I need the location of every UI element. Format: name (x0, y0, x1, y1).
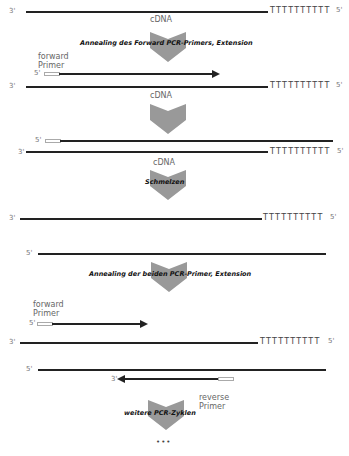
cdna-strand (20, 342, 258, 344)
reverse-primer-label: reversePrimer (199, 393, 229, 411)
three-prime-label: 3' (9, 339, 15, 346)
three-prime-label: 3' (18, 149, 24, 156)
forward-primer (44, 72, 60, 76)
five-prime-label: 5' (330, 214, 336, 221)
arrow-head-icon (212, 70, 220, 78)
three-prime-label: 3' (9, 83, 15, 90)
poly-t-tail: TTTTTTTTTT (270, 82, 331, 90)
five-prime-label: 5' (328, 338, 334, 345)
five-prime-label: 5' (26, 250, 32, 257)
step-label-annealing-forward: Annealing des Forward PCR-Primers, Exten… (80, 39, 253, 47)
poly-t-tail: TTTTTTTTTT (263, 214, 324, 222)
cdna-label: cDNA (150, 91, 172, 100)
forward-primer (45, 139, 61, 143)
cdna-strand (20, 218, 262, 220)
five-prime-label: 5' (29, 320, 35, 327)
cdna-strand (26, 86, 268, 88)
five-prime-label: 5' (34, 70, 40, 77)
step-label-annealing-both: Annealing der beiden PCR-Primer, Extensi… (89, 270, 251, 278)
ellipsis: ••• (156, 438, 171, 446)
complement-strand (60, 140, 333, 142)
step-label-melting: Schmelzen (145, 178, 184, 186)
five-prime-label: 5' (337, 148, 343, 155)
three-prime-label: 3' (9, 8, 15, 15)
five-prime-label: 5' (336, 82, 342, 89)
complement-strand (38, 253, 326, 255)
cdna-strand (26, 11, 268, 13)
cdna-label: cDNA (150, 15, 172, 24)
forward-primer-label: forwardPrimer (38, 52, 69, 70)
five-prime-label: 5' (35, 137, 41, 144)
step-arrow-2 (150, 104, 186, 134)
step-arrow-1 (150, 32, 186, 62)
forward-primer (37, 322, 53, 326)
forward-primer-label: forwardPrimer (33, 300, 64, 318)
cdna-strand (26, 151, 268, 153)
step-label-further-cycles: weitere PCR-Zyklen (124, 409, 196, 417)
poly-t-tail: TTTTTTTTTT (270, 148, 331, 156)
three-prime-label: 3' (9, 215, 15, 222)
reverse-primer (218, 377, 234, 381)
arrow-head-icon (140, 320, 148, 328)
extension-strand (59, 73, 214, 75)
poly-t-tail: TTTTTTTTTT (270, 7, 331, 15)
complement-strand (38, 369, 326, 371)
cdna-label: cDNA (153, 158, 175, 167)
five-prime-label: 5' (26, 366, 32, 373)
five-prime-label: 5' (336, 7, 342, 14)
poly-t-tail: TTTTTTTTTT (260, 338, 321, 346)
reverse-extension-strand (124, 378, 218, 380)
extension-strand (52, 323, 142, 325)
